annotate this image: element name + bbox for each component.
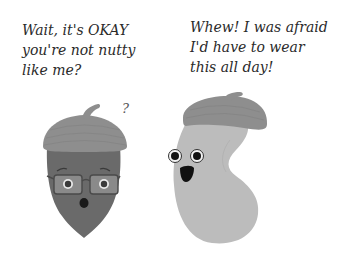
question-mark-icon: ? bbox=[122, 101, 130, 116]
comic-scene: ? bbox=[0, 0, 339, 253]
acorn-cap-icon bbox=[43, 115, 127, 152]
bean-character bbox=[169, 92, 268, 243]
acorn-character bbox=[43, 104, 127, 238]
acorn-mouth bbox=[80, 198, 89, 208]
bean-cap-icon bbox=[183, 96, 267, 130]
